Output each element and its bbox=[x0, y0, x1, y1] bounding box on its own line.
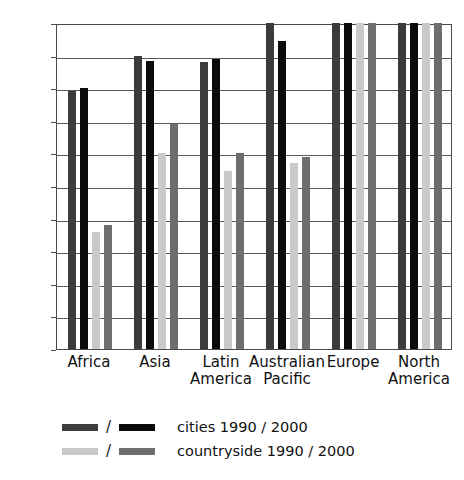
gridline bbox=[57, 286, 451, 287]
bar bbox=[422, 23, 430, 349]
legend-label: countryside 1990 / 2000 bbox=[177, 443, 355, 459]
x-axis-label-line-2: America bbox=[374, 371, 464, 388]
bar bbox=[80, 88, 88, 349]
bar bbox=[290, 163, 298, 349]
bar-group bbox=[332, 25, 376, 349]
legend-row: /countryside 1990 / 2000 bbox=[62, 439, 355, 463]
bar bbox=[356, 23, 364, 349]
bar bbox=[302, 157, 310, 349]
x-axis-label-line-1: North bbox=[398, 353, 440, 371]
bar bbox=[134, 56, 142, 349]
bar bbox=[368, 23, 376, 349]
x-axis-tick-label: NorthAmerica bbox=[374, 354, 464, 388]
gridline bbox=[57, 253, 451, 254]
bar bbox=[398, 23, 406, 349]
bar bbox=[344, 23, 352, 349]
x-axis-label-line-1: Europe bbox=[327, 353, 380, 371]
y-axis-tick-mark bbox=[51, 317, 56, 318]
bar bbox=[68, 91, 76, 349]
bar-group bbox=[398, 25, 442, 349]
bar bbox=[224, 171, 232, 349]
bar bbox=[92, 232, 100, 349]
x-axis-label-line-1: Latin bbox=[202, 353, 239, 371]
gridline bbox=[57, 318, 451, 319]
y-axis-tick-mark bbox=[51, 350, 56, 351]
bar bbox=[104, 225, 112, 349]
bar-group bbox=[266, 25, 310, 349]
gridline bbox=[57, 221, 451, 222]
bar bbox=[434, 23, 442, 349]
gridline bbox=[57, 58, 451, 59]
y-axis-tick-mark bbox=[51, 252, 56, 253]
legend-separator: / bbox=[106, 442, 111, 460]
legend-label: cities 1990 / 2000 bbox=[177, 419, 308, 435]
bar bbox=[146, 61, 154, 350]
gridline bbox=[57, 90, 451, 91]
y-axis-tick-mark bbox=[51, 154, 56, 155]
countryside-2000-swatch bbox=[119, 448, 155, 455]
cities-2000-swatch bbox=[119, 424, 155, 431]
bar-group bbox=[200, 25, 244, 349]
bar bbox=[410, 23, 418, 349]
y-axis-tick-mark bbox=[51, 24, 56, 25]
bar bbox=[266, 23, 274, 349]
bar bbox=[170, 124, 178, 349]
gridline bbox=[57, 123, 451, 124]
y-axis-tick-mark bbox=[51, 89, 56, 90]
plot-area bbox=[56, 24, 452, 350]
bar bbox=[200, 62, 208, 349]
bar-group bbox=[68, 25, 112, 349]
x-axis-label-line-2: Pacific bbox=[242, 371, 332, 388]
y-axis-tick-mark bbox=[51, 285, 56, 286]
x-axis-label-line-1: Asia bbox=[139, 353, 170, 371]
legend-separator: / bbox=[106, 418, 111, 436]
bar-chart: connected inhabitants (%) 01020304050607… bbox=[0, 0, 464, 480]
bar bbox=[236, 153, 244, 349]
countryside-1990-swatch bbox=[62, 448, 98, 455]
legend-row: /cities 1990 / 2000 bbox=[62, 415, 355, 439]
gridline bbox=[57, 155, 451, 156]
y-axis-tick-mark bbox=[51, 122, 56, 123]
chart-legend: /cities 1990 / 2000/countryside 1990 / 2… bbox=[62, 415, 355, 463]
bar bbox=[332, 23, 340, 349]
x-axis-label-line-1: Africa bbox=[68, 353, 111, 371]
gridline bbox=[57, 188, 451, 189]
bar bbox=[212, 59, 220, 349]
bar bbox=[158, 153, 166, 349]
bar bbox=[278, 41, 286, 349]
cities-1990-swatch bbox=[62, 424, 98, 431]
y-axis-tick-mark bbox=[51, 187, 56, 188]
y-axis-tick-mark bbox=[51, 220, 56, 221]
bar-group bbox=[134, 25, 178, 349]
y-axis-tick-mark bbox=[51, 57, 56, 58]
